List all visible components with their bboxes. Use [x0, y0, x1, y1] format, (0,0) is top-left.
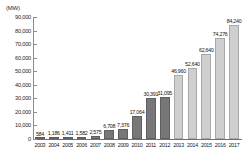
bar-value-label: 46,960: [171, 68, 186, 74]
x-axis-tick-label: 2012: [159, 142, 170, 148]
bar-2016: [215, 38, 225, 139]
bar-value-label: 17,064: [130, 109, 145, 115]
y-axis-tick-label: 40,000: [0, 82, 31, 88]
bar-value-label: 30,391: [144, 91, 159, 97]
bar-2014: [188, 68, 198, 139]
x-axis-tick-label: 2010: [132, 142, 143, 148]
x-axis-tick-label: 2004: [48, 142, 59, 148]
x-axis-tick-label: 2009: [118, 142, 129, 148]
bar-value-label: 6,708: [103, 123, 115, 129]
bar-value-label: 1,186: [48, 130, 60, 136]
x-axis-tick-label: 2003: [35, 142, 46, 148]
y-axis-tick: [33, 44, 37, 45]
y-axis-tick: [33, 58, 37, 59]
x-axis-tick-label: 2007: [90, 142, 101, 148]
x-axis-tick-label: 2015: [201, 142, 212, 148]
y-axis-tick-label: 80,000: [0, 28, 31, 34]
bar-2015: [201, 54, 211, 139]
bar-2013: [174, 75, 184, 139]
y-axis-tick-label: 70,000: [0, 41, 31, 47]
x-axis-tick-label: 2013: [173, 142, 184, 148]
bar-2009: [118, 129, 128, 139]
bar-2010: [132, 116, 142, 139]
y-axis-tick: [33, 139, 37, 140]
y-axis-unit-label: (MW): [6, 5, 20, 11]
bar-2005: [63, 137, 73, 139]
y-axis-tick-label: 30,000: [0, 95, 31, 101]
bar-value-label: 1,582: [76, 130, 88, 136]
bar-value-label: 74,276: [213, 31, 228, 37]
bar-value-label: 7,376: [117, 122, 129, 128]
x-axis-tick-label: 2011: [146, 142, 156, 148]
x-axis-tick-label: 2008: [104, 142, 115, 148]
bar-2007: [91, 136, 101, 139]
x-axis-tick-label: 2017: [229, 142, 240, 148]
y-axis-tick: [33, 85, 37, 86]
y-axis-tick-label: 90,000: [0, 14, 31, 20]
y-axis-tick: [33, 71, 37, 72]
y-axis-tick: [33, 98, 37, 99]
bar-2004: [49, 137, 59, 139]
y-axis-tick-label: 60,000: [0, 55, 31, 61]
x-axis-tick-label: 2014: [187, 142, 198, 148]
bar-2017: [229, 25, 239, 139]
x-axis-tick-label: 2006: [76, 142, 87, 148]
bar-2012: [160, 97, 170, 139]
x-axis-tick-label: 2005: [62, 142, 73, 148]
bar-2006: [77, 137, 87, 139]
bar-value-label: 2,575: [89, 129, 101, 135]
bar-2011: [146, 98, 156, 139]
y-axis-tick: [33, 31, 37, 32]
y-axis-tick: [33, 125, 37, 126]
bar-value-label: 1,411: [62, 130, 74, 136]
bar-2003: [35, 137, 45, 139]
y-axis-tick-label: 20,000: [0, 109, 31, 115]
y-axis-tick: [33, 17, 37, 18]
bar-value-label: 84,240: [227, 18, 242, 24]
y-axis-line: [33, 17, 34, 140]
y-axis-tick-label: 10,000: [0, 122, 31, 128]
bar-value-label: 52,640: [185, 61, 200, 67]
bar-value-label: 62,640: [199, 47, 214, 53]
y-axis-tick-label: 50,000: [0, 68, 31, 74]
y-axis-tick-label: 0: [0, 136, 31, 142]
bar-value-label: 31,095: [157, 90, 172, 96]
bar-2008: [104, 130, 114, 139]
bar-value-label: 584: [36, 131, 44, 137]
bar-chart: (MW) 010,00020,00030,00040,00050,00060,0…: [0, 0, 246, 164]
y-axis-tick: [33, 112, 37, 113]
x-axis-line: [33, 139, 242, 140]
x-axis-tick-label: 2016: [215, 142, 226, 148]
